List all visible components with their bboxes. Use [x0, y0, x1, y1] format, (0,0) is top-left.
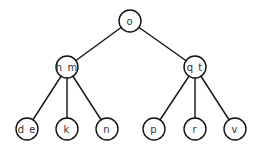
- edge-root-left: [67, 21, 130, 67]
- tree-node-leaf5: r: [184, 118, 206, 140]
- tree-node-leaf2: k: [56, 118, 78, 140]
- tree-node-right: q t: [184, 56, 206, 78]
- tree-node-root: o: [119, 10, 141, 32]
- tree-node-leaf6: v: [224, 118, 246, 140]
- node-label: p: [150, 124, 157, 135]
- node-label: o: [126, 16, 133, 27]
- tree-node-leaf4: p: [143, 118, 165, 140]
- tree-edges: [27, 21, 235, 129]
- node-label: r: [192, 124, 197, 135]
- node-label: v: [232, 124, 239, 135]
- node-label: d e: [18, 124, 37, 135]
- tree-node-leaf3: n: [96, 118, 118, 140]
- node-label: q t: [187, 62, 203, 73]
- tree-diagram: oh mq td eknprv: [0, 0, 258, 153]
- edge-root-right: [130, 21, 195, 67]
- tree-node-leaf1: d e: [16, 118, 38, 140]
- node-label: h m: [56, 62, 78, 73]
- tree-node-left: h m: [56, 56, 78, 78]
- node-label: k: [64, 124, 71, 135]
- tree-nodes: oh mq td eknprv: [16, 10, 246, 140]
- node-label: n: [103, 124, 110, 135]
